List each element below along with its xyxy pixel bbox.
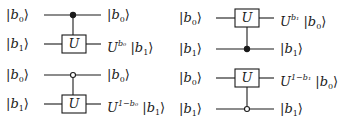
- output-U-pow-1-minus-b0-ket-b1: U1−b₀ |b1⟩: [107, 97, 165, 120]
- control-dot-open-icon: [245, 107, 250, 112]
- ket-b0-input: |b0⟩: [6, 68, 29, 87]
- output-U-pow-b1-ket-b0: Ub₁ |b0⟩: [280, 11, 326, 34]
- output-U-pow-1-minus-b1-ket-b0: U1−b₁ |b0⟩: [280, 71, 338, 94]
- ket-b1-input: |b1⟩: [6, 97, 29, 116]
- gate-label-right-bottom: U: [235, 69, 259, 87]
- ket-b0-output: |b0⟩: [107, 8, 130, 27]
- ket-b0-input: |b0⟩: [6, 8, 29, 27]
- control-dot-filled-icon: [244, 46, 249, 51]
- ket-b0-input: |b0⟩: [179, 11, 202, 30]
- ket-b0-output: |b0⟩: [107, 68, 130, 87]
- ket-b1-input: |b1⟩: [179, 42, 202, 61]
- ket-b0-input: |b0⟩: [179, 71, 202, 90]
- ket-b1-input: |b1⟩: [179, 102, 202, 121]
- ket-b1-output: |b1⟩: [280, 42, 303, 61]
- gate-label-right-top: U: [235, 9, 259, 27]
- output-U-pow-b0-ket-b1: Ub₀ |b1⟩: [107, 37, 153, 60]
- control-dot-filled-icon: [70, 12, 75, 17]
- ket-b1-input: |b1⟩: [6, 37, 29, 56]
- ket-b1-output: |b1⟩: [280, 102, 303, 121]
- gate-label-left-bottom: U: [62, 95, 86, 113]
- gate-label-left-top: U: [62, 35, 86, 53]
- control-dot-open-icon: [71, 73, 76, 78]
